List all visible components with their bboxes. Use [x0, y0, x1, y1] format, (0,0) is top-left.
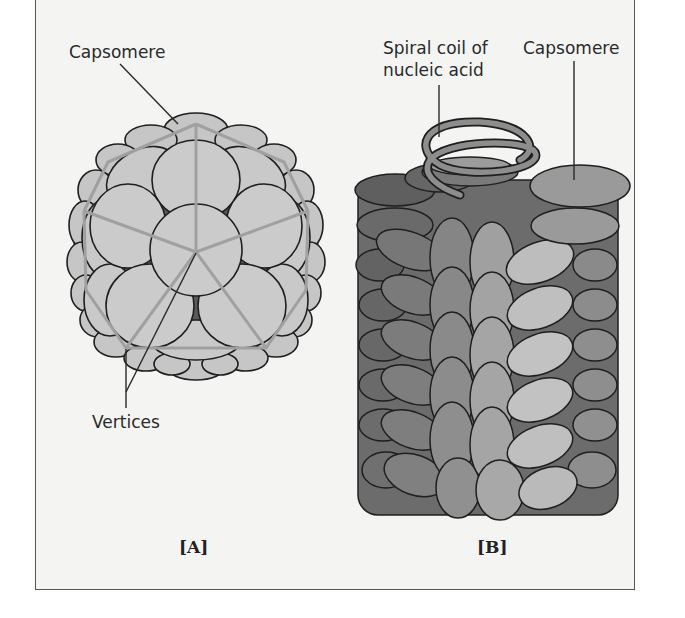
label-spiral-line1: Spiral coil of	[383, 38, 488, 59]
label-capsomere-a: Capsomere	[69, 42, 165, 63]
panel-a-tag: [A]	[179, 537, 208, 557]
label-spiral-line2: nucleic acid	[383, 60, 484, 81]
capsid-illustration	[0, 0, 685, 618]
label-vertices: Vertices	[92, 412, 160, 433]
label-capsomere-b: Capsomere	[523, 38, 619, 59]
helical-capsid	[355, 157, 630, 520]
panel-b-tag: [B]	[477, 537, 507, 557]
